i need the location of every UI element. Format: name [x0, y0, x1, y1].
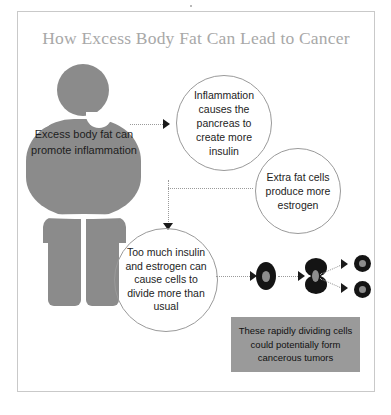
nucleus-icon — [359, 286, 366, 293]
connector-to-estrogen — [168, 188, 253, 189]
step-label-inflammation: Inflammation causes the pancreas to crea… — [185, 88, 263, 158]
figure-head — [57, 64, 109, 116]
nucleus-icon — [359, 260, 366, 267]
nucleus-icon — [262, 271, 270, 282]
page-title: How Excess Body Fat Can Lead to Cancer — [17, 28, 375, 49]
figure-leg-left — [48, 218, 81, 306]
connector-figure-to-inflammation — [130, 124, 163, 125]
arrowhead-to-daughter-cell-2 — [341, 283, 348, 293]
arrowhead-to-daughter-cell-1 — [341, 259, 348, 269]
step-label-estrogen: Extra fat cells produce more estrogen — [260, 170, 336, 212]
callout-box: These rapidly dividing cells could poten… — [231, 317, 360, 372]
figure-leg-right — [86, 218, 119, 306]
scan-speck — [190, 5, 192, 7]
step-circle-cell-division: Too much insulin and estrogen can cause … — [114, 228, 218, 332]
infographic-canvas: How Excess Body Fat Can Lead to Cancer E… — [0, 0, 391, 415]
dividing-cell-icon — [301, 258, 331, 294]
figure-waist-line — [37, 214, 131, 219]
step-label-cell-division: Too much insulin and estrogen can cause … — [123, 246, 209, 314]
connector-to-dividing-cell — [278, 276, 298, 277]
connector-to-single-cell — [216, 276, 250, 277]
nucleus-icon — [312, 270, 319, 282]
single-cell-icon — [256, 262, 276, 290]
daughter-cell-icon-1 — [354, 255, 371, 272]
step-circle-estrogen: Extra fat cells produce more estrogen — [255, 148, 341, 234]
arrowhead-to-inflammation — [163, 119, 170, 129]
connector-vertical-to-division — [168, 180, 169, 224]
figure-leg-gap — [81, 219, 86, 307]
figure-label: Excess body fat can promote inflammation — [28, 127, 140, 158]
daughter-cell-icon-2 — [354, 281, 371, 298]
callout-label: These rapidly dividing cells could poten… — [234, 324, 357, 365]
step-circle-inflammation: Inflammation causes the pancreas to crea… — [176, 75, 272, 171]
